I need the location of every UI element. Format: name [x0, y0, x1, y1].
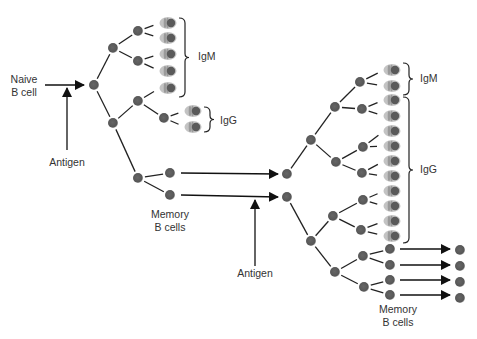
memory-b-cell [455, 245, 465, 255]
b-cell [133, 173, 143, 183]
plasma-cell-igg [384, 170, 401, 182]
lineage-edge [368, 164, 378, 169]
lineage-edge [119, 51, 132, 58]
naive-label-1: Naive [11, 73, 38, 85]
lineage-edge [144, 105, 158, 114]
lineage-edge [368, 232, 377, 234]
lineage-edge [97, 54, 110, 79]
igm-brace-1 [179, 18, 189, 97]
plasma-cell-igg [384, 140, 401, 152]
antigen-label-2: Antigen [237, 267, 273, 279]
bcells-label-1: B cells [155, 221, 186, 233]
plasma-cell-igm [160, 82, 177, 94]
igg-label-1: IgG [220, 114, 237, 126]
igg-label-2: IgG [420, 163, 437, 175]
b-cell [306, 135, 316, 145]
plasma-cell-igm [160, 32, 177, 44]
igm-label-2: IgM [420, 72, 438, 84]
b-cell [331, 157, 341, 167]
plasma-cell-igg [185, 121, 202, 133]
lineage-edge [368, 224, 378, 228]
b-cell [282, 169, 292, 179]
lineage-edge [290, 203, 307, 235]
igm-brace-2 [403, 63, 413, 95]
plasma-cell-igg [384, 155, 401, 167]
b-cell [330, 267, 340, 277]
lineage-edge [170, 121, 178, 124]
memory-b-cell [455, 261, 465, 271]
lineage-edge [367, 83, 377, 85]
lineage-edge [369, 111, 378, 114]
b-cell [108, 118, 118, 128]
memory-label-1: Memory [151, 208, 190, 220]
naive-b-cell [89, 80, 99, 90]
plasma-cell-igg [384, 94, 401, 106]
b-cell [133, 96, 143, 106]
bcells-label-2: B cells [383, 316, 414, 328]
b-cell [358, 195, 368, 205]
memory-arrow-2 [181, 195, 278, 197]
labels: NaiveB cellAntigenIgMIgGMemoryB cellsAnt… [11, 50, 438, 328]
b-cell [282, 192, 292, 202]
lineage-edge [145, 33, 154, 36]
lineage-edge [145, 56, 154, 59]
lineage-edge [342, 108, 355, 109]
lineage-edge [371, 282, 383, 285]
lineage-edge [341, 259, 357, 268]
lineage-edge [119, 35, 132, 44]
naive-label-2: B cell [11, 86, 37, 98]
lineage-edge [370, 251, 383, 254]
plasma-cell-igg [384, 215, 401, 227]
plasma-cell-igm [160, 65, 177, 77]
lineage-edge [316, 145, 330, 158]
igm-label-1: IgM [198, 50, 216, 62]
b-cell [330, 102, 340, 112]
plasma-cell-igm [160, 17, 177, 29]
lineage-edge [144, 181, 164, 191]
plasma-cell-igg [384, 230, 401, 242]
lineage-edge [368, 103, 377, 107]
plasma-cell-igg [384, 110, 401, 122]
lineage-edge [97, 91, 110, 116]
plasma-cell-igm [160, 48, 177, 60]
antigen-label-1: Antigen [49, 156, 85, 168]
b-cell [133, 56, 143, 66]
b-cell [357, 168, 367, 178]
plasma-cell-igm [384, 64, 401, 76]
lineage-edge [144, 64, 153, 68]
lineage-edge [145, 25, 154, 28]
lineage-edge [116, 129, 135, 171]
memory-b-cell [385, 290, 395, 300]
plasma-cell-igg [384, 125, 401, 137]
b-cell [359, 282, 369, 292]
lineage-edge [340, 87, 355, 102]
b-cell [328, 211, 338, 221]
plasma-cell-igg [384, 185, 401, 197]
lineage-edge [342, 150, 357, 158]
lineage-edge [370, 202, 378, 204]
lineage-edge [145, 174, 163, 177]
b-cell [159, 113, 169, 123]
igg-brace-1 [204, 107, 214, 132]
plasma-cell-igm [384, 80, 401, 92]
lineage-edge [369, 135, 379, 143]
b-cell [358, 142, 368, 152]
b-cell-response-diagram: NaiveB cellAntigenIgMIgGMemoryB cellsAnt… [0, 0, 477, 339]
lineage-edge [171, 113, 179, 116]
b-cell [355, 77, 365, 87]
plasma-cell-igg [384, 200, 401, 212]
memory-arrow-1 [181, 173, 278, 174]
lineage-edge [315, 113, 331, 135]
b-cell [356, 225, 366, 235]
lineage-edge [369, 194, 377, 197]
b-cell [306, 236, 316, 246]
lineage-edge [341, 275, 358, 284]
memory-b-cell [385, 275, 395, 285]
memory-b-cell [455, 277, 465, 287]
lineage-edge [144, 92, 154, 98]
memory-b-cell [165, 168, 175, 178]
b-cell [108, 43, 118, 53]
lineage-edge [339, 219, 354, 227]
memory-label-2: Memory [379, 303, 418, 315]
lineage-edge [118, 106, 132, 119]
